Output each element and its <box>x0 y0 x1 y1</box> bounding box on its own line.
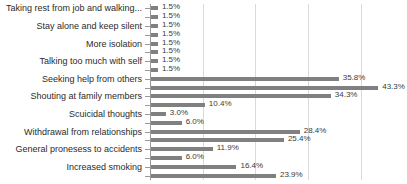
bar <box>150 165 236 169</box>
bar-row: 1.5% <box>150 39 403 48</box>
axis-tick <box>145 44 150 45</box>
bar <box>150 86 378 90</box>
bar <box>150 42 158 46</box>
category-label: Stay alone and keep silent <box>0 21 142 31</box>
horizontal-bar-chart: Taking rest from job and walking...Stay … <box>0 0 407 184</box>
bar-row: 6.0% <box>150 154 403 163</box>
bar-value-label: 6.0% <box>186 117 204 127</box>
bar <box>150 59 158 63</box>
bar-value-label: 11.9% <box>217 143 239 153</box>
axis-tick <box>145 158 150 159</box>
axis-tick <box>145 149 150 150</box>
bar <box>150 6 158 10</box>
axis-tick <box>145 167 150 168</box>
category-label: Scuicidal thoughts <box>0 109 142 119</box>
bar-row: 1.5% <box>150 13 403 22</box>
bar-value-label: 43.3% <box>382 82 405 92</box>
bar-value-label: 10.4% <box>209 99 232 109</box>
axis-tick <box>145 35 150 36</box>
category-label: General pronesess to accidents <box>0 144 142 154</box>
category-label: Talking too much with self <box>0 56 142 66</box>
axis-tick <box>145 132 150 133</box>
axis-tick <box>145 140 150 141</box>
category-label: Shouting at family members <box>0 91 142 101</box>
category-label: Increased smoking <box>0 162 142 172</box>
axis-tick <box>145 96 150 97</box>
axis-tick <box>145 114 150 115</box>
axis-tick <box>145 79 150 80</box>
category-label: More isolation <box>0 39 142 49</box>
bar <box>150 50 158 54</box>
bar <box>150 174 276 178</box>
bar-value-label: 34.3% <box>335 90 358 100</box>
axis-tick <box>145 70 150 71</box>
bar-row: 1.5% <box>150 4 403 13</box>
bar <box>150 156 182 160</box>
plot-area: 1.5%1.5%1.5%1.5%1.5%1.5%1.5%1.5%35.8%43.… <box>150 4 403 180</box>
category-label: Seeking help from others <box>0 74 142 84</box>
bar <box>150 15 158 19</box>
category-label: Withdrawal from relationships <box>0 127 142 137</box>
bar <box>150 24 158 28</box>
bar-row: 25.4% <box>150 136 403 145</box>
bar <box>150 138 284 142</box>
value-axis-line <box>150 4 151 180</box>
axis-tick <box>145 105 150 106</box>
category-axis-labels: Taking rest from job and walking...Stay … <box>0 4 146 180</box>
bar <box>150 147 213 151</box>
axis-tick <box>145 8 150 9</box>
bar-value-label: 25.4% <box>288 134 311 144</box>
axis-tick <box>145 176 150 177</box>
axis-tick <box>145 61 150 62</box>
bar <box>150 112 166 116</box>
bar-row: 28.4% <box>150 127 403 136</box>
bar <box>150 130 300 134</box>
bar-row: 1.5% <box>150 57 403 66</box>
bar-row: 34.3% <box>150 92 403 101</box>
axis-tick <box>145 88 150 89</box>
axis-tick <box>145 123 150 124</box>
bar-value-label: 6.0% <box>186 152 204 162</box>
axis-tick <box>145 52 150 53</box>
bar-row: 35.8% <box>150 74 403 83</box>
bar <box>150 68 158 72</box>
bar-value-label: 1.5% <box>162 64 180 74</box>
bar-row: 6.0% <box>150 118 403 127</box>
bar <box>150 94 331 98</box>
bar-row: 1.5% <box>150 30 403 39</box>
axis-tick <box>145 26 150 27</box>
bar-row: 1.5% <box>150 48 403 57</box>
bar <box>150 33 158 37</box>
bar <box>150 77 339 81</box>
bar <box>150 103 205 107</box>
bar-value-label: 23.9% <box>280 170 303 180</box>
bar <box>150 121 182 125</box>
bar-row: 23.9% <box>150 171 403 180</box>
bar-row: 16.4% <box>150 162 403 171</box>
axis-tick <box>145 17 150 18</box>
bar-value-label: 16.4% <box>240 161 263 171</box>
category-label: Taking rest from job and walking... <box>0 3 142 13</box>
bar-value-label: 35.8% <box>343 73 366 83</box>
bar-row: 1.5% <box>150 22 403 31</box>
bar-row: 43.3% <box>150 83 403 92</box>
